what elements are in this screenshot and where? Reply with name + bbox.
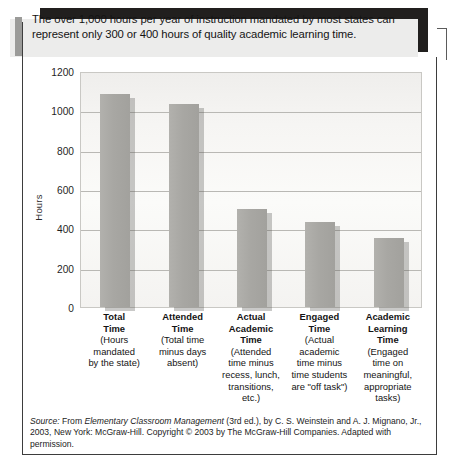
- category-subtitle-line: by the state): [80, 357, 148, 369]
- category-subtitle-line: etc.): [217, 392, 285, 404]
- y-axis-tick-labels: 020040060080010001200: [34, 72, 74, 304]
- category-subtitle-line: appropriate: [354, 381, 422, 393]
- category-title-line: Engaged: [285, 311, 353, 323]
- source-label: Source:: [30, 416, 60, 426]
- category-subtitle-line: (Actual: [285, 334, 353, 346]
- category-subtitle-line: (Total time: [148, 334, 216, 346]
- category-subtitle-line: are "off task"): [285, 381, 353, 393]
- category-subtitle-line: absent): [148, 357, 216, 369]
- bar-chart: Hours 020040060080010001200 TotalTime(Ho…: [22, 60, 437, 412]
- y-axis-tick-label: 1000: [34, 106, 74, 117]
- caption-banner: The over 1,000 hours per year of instruc…: [10, 8, 428, 56]
- category-subtitle-line: academic: [285, 346, 353, 358]
- x-axis-category-label: TotalTime(Hoursmandatedby the state): [80, 311, 148, 369]
- x-axis-category-label: ActualAcademicTime(Attendedtime minusrec…: [217, 311, 285, 404]
- category-subtitle-line: time minus: [285, 357, 353, 369]
- category-title-line: Attended: [148, 311, 216, 323]
- category-subtitle-line: tasks): [354, 392, 422, 404]
- category-title-line: Time: [217, 334, 285, 346]
- category-title-line: Time: [80, 323, 148, 335]
- category-subtitle-line: recess, lunch,: [217, 369, 285, 381]
- bar: [169, 104, 199, 307]
- category-subtitle-line: time students: [285, 369, 353, 381]
- x-axis-category-label: AcademicLearningTime(Engagedtime onmeani…: [354, 311, 422, 404]
- category-subtitle-line: (Hours: [80, 334, 148, 346]
- category-title-line: Time: [354, 334, 422, 346]
- category-subtitle-line: meaningful,: [354, 369, 422, 381]
- x-axis-category-labels: TotalTime(Hoursmandatedby the state)Atte…: [80, 311, 422, 411]
- category-subtitle-line: (Attended: [217, 346, 285, 358]
- category-title-line: Academic: [354, 311, 422, 323]
- bar: [374, 238, 404, 307]
- bar: [305, 222, 335, 307]
- y-axis-tick-label: 0: [34, 303, 74, 314]
- y-axis-tick-label: 200: [34, 263, 74, 274]
- category-subtitle-line: transitions,: [217, 381, 285, 393]
- category-title-line: Actual: [217, 311, 285, 323]
- bar: [100, 94, 130, 307]
- category-subtitle-line: (Engaged: [354, 346, 422, 358]
- category-subtitle-line: minus days: [148, 346, 216, 358]
- y-axis-tick-label: 400: [34, 224, 74, 235]
- caption-text: The over 1,000 hours per year of instruc…: [32, 12, 404, 42]
- category-title-line: Total: [80, 311, 148, 323]
- source-note: Source: From Elementary Classroom Manage…: [30, 416, 426, 450]
- y-axis-tick-label: 600: [34, 185, 74, 196]
- category-title-line: Academic: [217, 323, 285, 335]
- category-subtitle-line: time minus: [217, 357, 285, 369]
- figure-frame-left-extension: [22, 22, 23, 62]
- source-prefix: From: [60, 416, 85, 426]
- bar: [237, 209, 267, 307]
- y-axis-tick-label: 800: [34, 145, 74, 156]
- plot-area: [80, 72, 422, 308]
- caption-connector-vertical: [446, 28, 447, 60]
- x-axis-category-label: AttendedTime(Total timeminus daysabsent): [148, 311, 216, 369]
- category-subtitle-line: time on: [354, 357, 422, 369]
- category-title-line: Time: [148, 323, 216, 335]
- source-title: Elementary Classroom Management: [84, 416, 223, 426]
- caption-shadow-right: [417, 8, 428, 52]
- category-title-line: Time: [285, 323, 353, 335]
- y-axis-tick-label: 1200: [34, 67, 74, 78]
- category-subtitle-line: mandated: [80, 346, 148, 358]
- x-axis-category-label: EngagedTime(Actualacademictime minustime…: [285, 311, 353, 392]
- caption-left-accent-bar: [15, 17, 22, 56]
- category-title-line: Learning: [354, 323, 422, 335]
